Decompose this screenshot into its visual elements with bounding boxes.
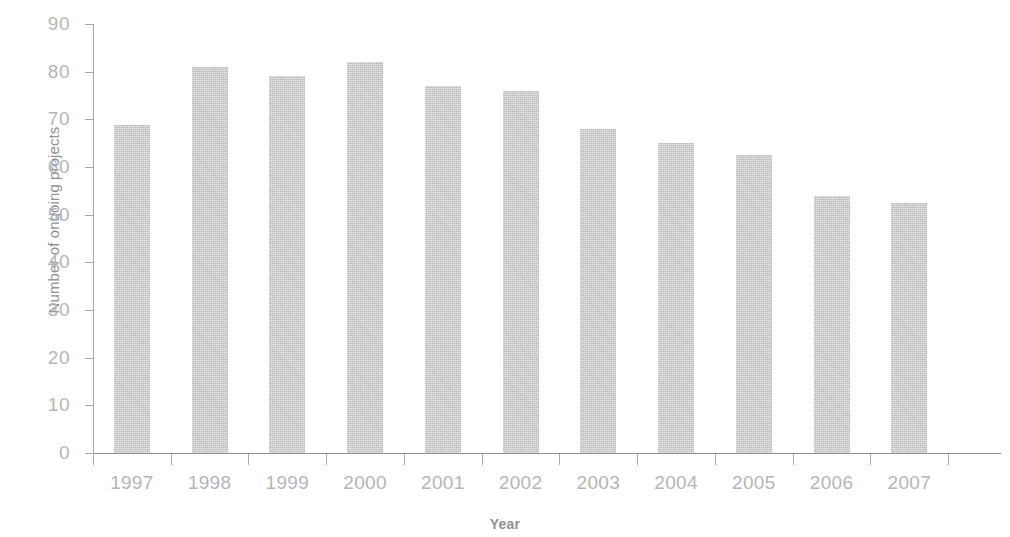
x-axis-tick-label: 2001 [400,472,485,494]
x-axis-tick [93,454,94,465]
x-axis-title: Year [0,516,1010,532]
bar [347,62,383,453]
x-axis-tick-label: 2003 [556,472,641,494]
x-axis-tick-label: 1997 [89,472,174,494]
y-axis-tick-label: 20 [0,347,70,369]
x-axis-tick [637,454,638,465]
x-axis-tick [715,454,716,465]
x-axis-tick [171,454,172,465]
x-axis-tick [482,454,483,465]
bar [814,196,850,453]
bar [580,129,616,453]
x-axis-tick [248,454,249,465]
y-axis-tick-label: 70 [0,108,70,130]
y-axis-tick-label: 10 [0,394,70,416]
bar-chart: Number of ongoing projects 0102030405060… [0,0,1010,537]
y-axis-tick-label: 90 [0,13,70,35]
y-axis-tick-label: 60 [0,156,70,178]
y-axis-tick-label: 80 [0,61,70,83]
bar [114,125,150,453]
x-axis-tick [948,454,949,465]
bar [269,76,305,453]
bar [503,91,539,453]
x-axis-tick-label: 2006 [789,472,874,494]
x-axis-tick [559,454,560,465]
bar [425,86,461,453]
y-axis-tick-label: 50 [0,204,70,226]
bar [891,203,927,453]
bar [192,67,228,453]
x-axis-tick [870,454,871,465]
bar [658,143,694,453]
y-axis-tick-label: 0 [0,442,70,464]
x-axis-line [93,453,1001,454]
x-axis-tick-label: 2007 [867,472,952,494]
x-axis-tick [793,454,794,465]
bar [736,155,772,453]
x-axis-tick [404,454,405,465]
x-axis-tick-label: 2004 [634,472,719,494]
x-axis-tick-label: 2005 [711,472,796,494]
y-axis-tick-label: 40 [0,251,70,273]
x-axis-tick-label: 1998 [167,472,252,494]
x-axis-tick [326,454,327,465]
x-axis-tick-label: 2002 [478,472,563,494]
x-axis-tick-label: 2000 [323,472,408,494]
bars-layer [93,24,1001,453]
y-axis-tick-label: 30 [0,299,70,321]
x-axis-tick-label: 1999 [245,472,330,494]
